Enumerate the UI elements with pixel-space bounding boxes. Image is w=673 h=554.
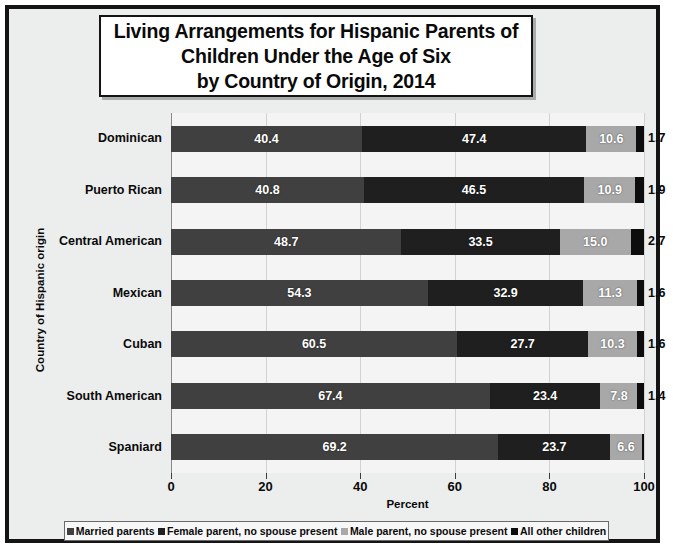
bar-segment [631,229,644,255]
chart-title: Living Arrangements for Hispanic Parents… [99,15,533,97]
title-line-2: Children Under the Age of Six [181,44,451,69]
category-label: Central American [59,229,171,255]
segment-value-label: 54.3 [287,286,311,300]
segment-value-label: 40.4 [254,132,278,146]
x-tick-label: 80 [542,479,556,494]
outside-value-label [644,434,648,460]
bar-segment: 6.6 [610,434,641,460]
legend-item[interactable]: Male parent, no spouse present [341,525,508,537]
x-tick-label: 60 [448,479,462,494]
bar-segment: 10.3 [588,331,637,357]
bar-segment: 54.3 [171,280,428,306]
bar-row: Cuban60.527.710.31.6 [171,331,644,357]
bar-segment: 27.7 [457,331,588,357]
segment-value-label: 47.4 [462,132,486,146]
category-label: Puerto Rican [85,177,171,203]
segment-value-label: 40.8 [255,183,279,197]
segment-value-label: 60.5 [302,337,326,351]
bar-segment: 23.7 [498,434,610,460]
x-tick-label: 0 [167,479,174,494]
category-label: Mexican [113,280,171,306]
bar-segment: 40.8 [171,177,364,203]
segment-value-label: 11.3 [598,286,622,300]
outside-value-label: 2.7 [644,229,665,255]
bar-segment: 15.0 [560,229,631,255]
legend-label: Married parents [76,525,155,537]
category-label: South American [67,383,171,409]
bar-segment: 40.4 [171,126,362,152]
bar-segment [637,383,644,409]
segment-value-label: 67.4 [318,389,342,403]
chart-legend: Married parentsFemale parent, no spouse … [64,521,609,541]
outside-value-label: 1.9 [644,177,665,203]
segment-value-label: 15.0 [583,235,607,249]
bar-rows: Dominican40.447.410.61.7Puerto Rican40.8… [171,113,644,473]
title-line-3: by Country of Origin, 2014 [197,69,436,94]
legend-swatch-icon [511,528,518,535]
x-axis-title: Percent [171,498,644,510]
bar-segment: 67.4 [171,383,490,409]
outside-value-label: 1.7 [644,126,665,152]
legend-item[interactable]: Female parent, no spouse present [158,525,337,537]
bar-segment: 23.4 [490,383,601,409]
x-tick-label: 20 [258,479,272,494]
segment-value-label: 10.3 [600,337,624,351]
legend-label: Male parent, no spouse present [350,525,508,537]
legend-swatch-icon [67,528,74,535]
bar-segment: 7.8 [600,383,637,409]
bar-segment: 32.9 [428,280,584,306]
segment-value-label: 46.5 [462,183,486,197]
bar-segment: 47.4 [362,126,586,152]
x-tick-label: 40 [353,479,367,494]
outside-value-label: 1.6 [644,280,665,306]
plot-area: Dominican40.447.410.61.7Puerto Rican40.8… [171,113,644,473]
segment-value-label: 69.2 [322,440,346,454]
x-tick-label: 100 [633,479,655,494]
segment-value-label: 48.7 [274,235,298,249]
legend-item[interactable]: Married parents [67,525,155,537]
bar-segment: 11.3 [583,280,636,306]
legend-swatch-icon [341,528,348,535]
segment-value-label: 7.8 [610,389,627,403]
category-label: Cuban [123,331,171,357]
bar-row: Dominican40.447.410.61.7 [171,126,644,152]
bar-row: South American67.423.47.81.4 [171,383,644,409]
segment-value-label: 23.4 [533,389,557,403]
bar-row: Spaniard69.223.76.6 [171,434,644,460]
y-axis-title: Country of Hispanic origin [34,185,46,415]
legend-swatch-icon [158,528,165,535]
segment-value-label: 32.9 [493,286,517,300]
bar-segment: 33.5 [401,229,559,255]
outside-value-label: 1.4 [644,383,665,409]
outside-value-label: 1.6 [644,331,665,357]
segment-value-label: 33.5 [468,235,492,249]
bar-segment: 46.5 [364,177,584,203]
category-label: Spaniard [109,434,172,460]
x-axis-tick-labels: 020406080100 [171,479,644,497]
bar-row: Mexican54.332.911.31.6 [171,280,644,306]
bar-segment: 60.5 [171,331,457,357]
bar-segment: 10.6 [586,126,636,152]
category-label: Dominican [98,126,171,152]
legend-label: Female parent, no spouse present [167,525,337,537]
bar-row: Central American48.733.515.02.7 [171,229,644,255]
bar-segment: 10.9 [584,177,636,203]
segment-value-label: 27.7 [510,337,534,351]
bar-segment: 69.2 [171,434,498,460]
bar-segment: 48.7 [171,229,401,255]
bar-row: Puerto Rican40.846.510.91.9 [171,177,644,203]
segment-value-label: 6.6 [617,440,634,454]
title-line-1: Living Arrangements for Hispanic Parents… [114,19,519,44]
legend-label: All other children [520,525,606,537]
chart-frame: Living Arrangements for Hispanic Parents… [5,5,660,543]
legend-item[interactable]: All other children [511,525,606,537]
segment-value-label: 10.6 [599,132,623,146]
segment-value-label: 10.9 [598,183,622,197]
segment-value-label: 23.7 [542,440,566,454]
